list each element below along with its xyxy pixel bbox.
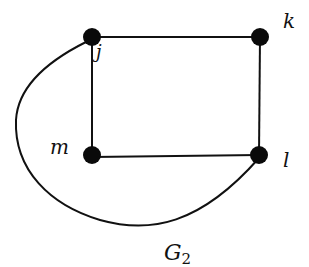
node-m bbox=[83, 146, 101, 164]
node-l bbox=[250, 146, 268, 164]
label-m: m bbox=[50, 135, 69, 159]
node-k bbox=[251, 28, 269, 46]
edge-l-m bbox=[92, 155, 259, 157]
label-k: k bbox=[283, 9, 295, 33]
graph-title-main: G bbox=[164, 240, 182, 265]
edge-j-l-curve bbox=[16, 42, 259, 226]
graph-title-subscript: 2 bbox=[182, 250, 192, 267]
graph-diagram: j k m l G2 bbox=[0, 0, 309, 267]
graph-title: G2 bbox=[164, 240, 191, 267]
edge-k-l bbox=[259, 37, 260, 155]
label-l: l bbox=[283, 148, 289, 172]
graph-svg: j k m l G2 bbox=[0, 0, 309, 267]
